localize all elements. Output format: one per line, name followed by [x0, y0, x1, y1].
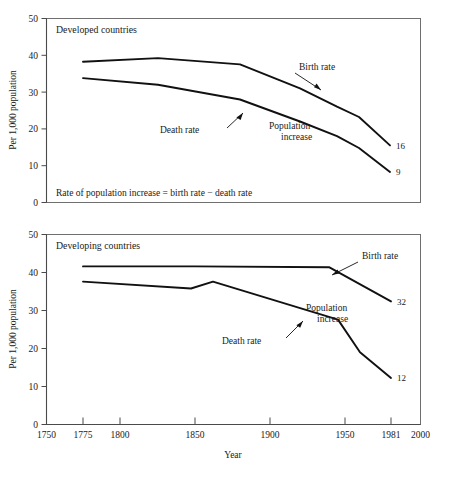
y-tick-label-10: 10	[29, 161, 39, 171]
birth-rate-label: Birth rate	[299, 62, 335, 72]
y-axis-ticks	[42, 19, 47, 203]
population-increase-line1: Population	[269, 121, 310, 131]
y-tick-label-20: 20	[29, 124, 39, 134]
death-rate-label: Death rate	[160, 125, 199, 135]
chart-panel-developed: 0 10 20 30 40 50 Per 1,000 population De…	[0, 0, 454, 228]
x-tick-label-1900: 1900	[261, 430, 280, 440]
population-increase-line2: increase	[317, 314, 348, 324]
death-rate-end-value: 12	[397, 373, 406, 383]
panel-title-developing: Developing countries	[56, 240, 140, 251]
population-increase-line2: increase	[281, 132, 312, 142]
birth-rate-annotation: Birth rate	[295, 62, 335, 90]
x-axis-ticks	[83, 418, 391, 425]
x-tick-label-1775: 1775	[74, 430, 93, 440]
death-rate-label: Death rate	[222, 336, 261, 346]
death-rate-end-value: 9	[396, 167, 401, 177]
y-tick-label-40: 40	[29, 268, 39, 278]
birth-rate-label: Birth rate	[362, 251, 398, 261]
birth-rate-end-value: 32	[397, 297, 406, 307]
birth-rate-annotation: Birth rate	[332, 251, 398, 275]
x-tick-label-1950: 1950	[336, 430, 355, 440]
population-increase-line1: Population	[306, 303, 347, 313]
death-rate-annotation: Death rate	[222, 321, 303, 346]
plot-frame	[47, 235, 421, 425]
x-tick-label-1850: 1850	[186, 430, 205, 440]
x-tick-label-2000: 2000	[411, 430, 430, 440]
birth-rate-arrowhead	[314, 83, 321, 90]
y-tick-label-40: 40	[29, 51, 39, 61]
birth-rate-end-value: 16	[396, 141, 406, 151]
population-rates-figure: 0 10 20 30 40 50 Per 1,000 population De…	[0, 0, 454, 487]
y-axis-title: Per 1,000 population	[8, 289, 18, 369]
developed-countries-plot: 0 10 20 30 40 50 Per 1,000 population De…	[0, 0, 454, 228]
plot-frame	[47, 19, 421, 203]
axis-lines	[47, 235, 421, 425]
y-tick-label-30: 30	[29, 88, 39, 98]
y-tick-label-0: 0	[33, 420, 38, 430]
birth-rate-line	[83, 58, 390, 145]
x-tick-label-1981: 1981	[382, 430, 401, 440]
developing-countries-plot: 0 10 20 30 40 50 Per 1,000 population 17…	[0, 228, 454, 487]
population-increase-label: Population increase	[269, 121, 312, 142]
y-tick-label-30: 30	[29, 306, 39, 316]
panel-title-developed: Developed countries	[56, 24, 137, 35]
y-axis-title: Per 1,000 population	[8, 70, 18, 150]
y-tick-label-20: 20	[29, 344, 39, 354]
death-rate-arrowhead	[236, 113, 243, 120]
death-rate-line	[83, 282, 391, 378]
y-tick-label-10: 10	[29, 382, 39, 392]
x-axis-title: Year	[224, 450, 242, 460]
x-tick-label-1800: 1800	[111, 430, 130, 440]
y-tick-label-0: 0	[33, 198, 38, 208]
rate-formula-annotation: Rate of population increase = birth rate…	[56, 188, 252, 198]
y-tick-label-50: 50	[29, 14, 39, 24]
death-rate-line	[83, 78, 390, 172]
population-increase-label: Population increase	[306, 303, 348, 324]
x-tick-label-1750: 1750	[37, 430, 56, 440]
chart-panel-developing: 0 10 20 30 40 50 Per 1,000 population 17…	[0, 228, 454, 487]
y-tick-label-50: 50	[29, 230, 39, 240]
death-rate-annotation: Death rate	[160, 113, 243, 135]
y-axis-ticks	[42, 235, 47, 425]
